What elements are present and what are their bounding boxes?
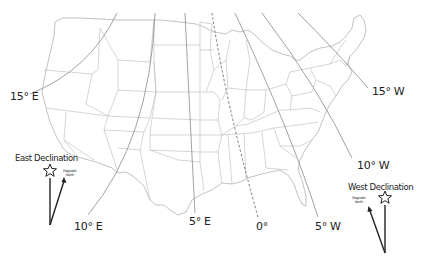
isogonic-line-15w	[298, 13, 368, 88]
us-coastline	[42, 15, 366, 215]
isogonic-line-15e	[30, 13, 117, 94]
label-10-east: 10° E	[74, 220, 102, 233]
magnetic-north-arrow	[50, 181, 64, 225]
label-15-west: 15° W	[372, 85, 404, 98]
north-label: North	[352, 200, 366, 204]
state-borders	[44, 20, 350, 200]
label-5-west: 5° W	[315, 220, 341, 233]
label-zero: 0°	[256, 220, 268, 233]
label-15-east: 15° E	[10, 90, 38, 103]
isogonic-line-zero	[212, 13, 258, 217]
arrowhead-icon	[368, 206, 373, 212]
declination-map	[0, 0, 427, 270]
label-10-west: 10° W	[357, 159, 389, 172]
magnetic-north-arrow	[370, 211, 385, 253]
west-declination-diagram	[368, 191, 392, 253]
east-declination-title: East Declination	[15, 153, 78, 163]
north-label: North	[63, 173, 77, 177]
west-magnetic-north-label: Magnetic North	[352, 196, 366, 204]
east-magnetic-north-label: Magnetic North	[63, 169, 77, 177]
arrowhead-icon	[62, 177, 67, 183]
label-5-east: 5° E	[189, 215, 211, 228]
isogonic-line-10w	[262, 13, 352, 158]
star-icon	[44, 164, 57, 176]
west-declination-title: West Declination	[348, 182, 413, 192]
star-icon	[379, 191, 392, 203]
us-outline	[42, 15, 366, 215]
isogonic-lines	[30, 13, 368, 217]
isogonic-line-5w	[235, 13, 318, 217]
isogonic-line-5e	[185, 13, 195, 213]
